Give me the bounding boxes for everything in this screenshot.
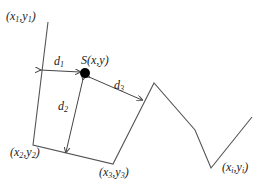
arrow-d2 bbox=[66, 79, 83, 152]
label-s: S(x,y) bbox=[81, 54, 109, 66]
label-xiyi: (xi,yi) bbox=[222, 161, 248, 175]
label-d2: d2 bbox=[58, 100, 68, 114]
arrow-d1 bbox=[40, 70, 80, 72]
label-x2y2: (x2,y2) bbox=[10, 146, 40, 160]
point-s-dot bbox=[80, 68, 90, 78]
label-d1: d1 bbox=[54, 55, 64, 69]
label-x1y1: (x1,y1) bbox=[6, 10, 36, 24]
label-d3: d3 bbox=[114, 79, 124, 93]
label-x3y3: (x3,y3) bbox=[99, 166, 129, 180]
polyline-path bbox=[33, 22, 252, 168]
